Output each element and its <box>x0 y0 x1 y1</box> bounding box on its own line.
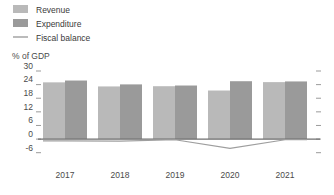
chart-legend: Revenue Expenditure Fiscal balance <box>13 5 91 43</box>
bar-revenue-2021 <box>263 82 285 139</box>
bars-group-2018 <box>98 84 142 139</box>
bars-group-2019 <box>153 86 197 140</box>
y-tick-label-0: 0 <box>28 129 33 139</box>
chart-canvas: Revenue Expenditure Fiscal balance % of … <box>0 0 334 195</box>
y-axis-ticks-right <box>316 71 321 153</box>
y-axis-title: % of GDP <box>12 51 50 61</box>
bar-expenditure-2020 <box>230 81 252 139</box>
y-tick-label-6: 6 <box>28 115 33 125</box>
bar-revenue-2018 <box>98 86 120 139</box>
bar-revenue-2019 <box>153 86 175 139</box>
fiscal-balance-line <box>43 140 307 149</box>
legend-swatch-expenditure <box>13 19 28 27</box>
bars-group-2020 <box>208 81 252 139</box>
y-tick-label-24: 24 <box>24 74 34 84</box>
legend-label-revenue: Revenue <box>36 5 70 15</box>
x-tick-label-2021: 2021 <box>276 170 295 180</box>
bar-revenue-2017 <box>43 82 65 139</box>
x-axis-labels: 2017 2018 2019 2020 2021 <box>56 170 295 180</box>
y-tick-label-30: 30 <box>24 61 34 71</box>
bar-expenditure-2019 <box>175 86 197 140</box>
legend-swatch-revenue <box>13 5 28 13</box>
bar-expenditure-2017 <box>65 81 87 140</box>
x-tick-label-2019: 2019 <box>166 170 185 180</box>
y-tick-label-18: 18 <box>24 88 34 98</box>
bars-group-2021 <box>263 81 307 139</box>
legend-label-expenditure: Expenditure <box>36 19 82 29</box>
bar-revenue-2020 <box>208 91 230 140</box>
fiscal-indicators-chart: Revenue Expenditure Fiscal balance % of … <box>0 0 334 195</box>
bar-expenditure-2021 <box>285 81 307 139</box>
legend-label-fiscal-balance: Fiscal balance <box>36 33 91 43</box>
x-tick-label-2020: 2020 <box>221 170 240 180</box>
bars-group-2017 <box>43 81 87 140</box>
x-tick-label-2018: 2018 <box>111 170 130 180</box>
y-tick-label-neg6: -6 <box>25 143 33 153</box>
bar-expenditure-2018 <box>120 84 142 139</box>
y-tick-label-12: 12 <box>24 102 34 112</box>
x-tick-label-2017: 2017 <box>56 170 75 180</box>
